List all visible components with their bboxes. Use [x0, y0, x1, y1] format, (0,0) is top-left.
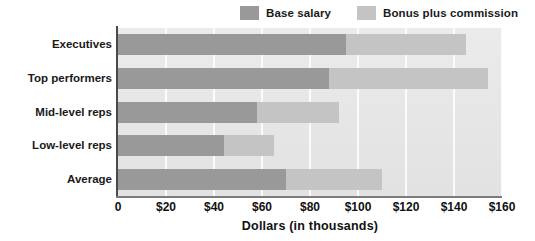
bar-row [118, 68, 488, 89]
x-tick-label: $80 [300, 200, 320, 214]
bar-segment-bonus-plus-commission [346, 34, 466, 55]
x-axis-title: Dollars (in thousands) [118, 219, 502, 233]
category-label: Mid-level reps [4, 106, 112, 118]
bar-segment-bonus-plus-commission [329, 68, 487, 89]
bar-segment-base-salary [118, 34, 346, 55]
bar-segment-base-salary [118, 102, 257, 123]
x-tick-label: $100 [345, 200, 372, 214]
bar-row [118, 135, 274, 156]
gridline [501, 28, 502, 196]
stacked-bar-chart: Base salary Bonus plus commission Execut… [0, 0, 535, 241]
x-tick-label: $60 [252, 200, 272, 214]
category-label: Low-level reps [4, 139, 112, 151]
category-axis-labels: ExecutivesTop performersMid-level repsLo… [0, 28, 112, 196]
bar-segment-bonus-plus-commission [257, 102, 339, 123]
legend-label-base-salary: Base salary [266, 7, 331, 19]
bar-segment-bonus-plus-commission [286, 169, 382, 190]
category-label: Average [4, 173, 112, 185]
x-tick-label: $40 [204, 200, 224, 214]
legend-label-bonus-plus-commission: Bonus plus commission [383, 7, 518, 19]
category-label: Top performers [4, 72, 112, 84]
y-axis-line [116, 26, 118, 198]
x-axis-line [116, 196, 502, 198]
legend-entry-bonus-plus-commission: Bonus plus commission [357, 6, 518, 20]
x-tick-label: $20 [156, 200, 176, 214]
x-tick-label: $120 [393, 200, 420, 214]
bar-segment-base-salary [118, 68, 329, 89]
plot-area [118, 28, 502, 196]
category-label: Executives [4, 38, 112, 50]
legend-swatch-base-salary [240, 6, 259, 20]
x-tick-label: $140 [441, 200, 468, 214]
bar-row [118, 169, 382, 190]
bar-row [118, 102, 339, 123]
legend-swatch-bonus-plus-commission [357, 6, 376, 20]
bar-segment-base-salary [118, 169, 286, 190]
legend-entry-base-salary: Base salary [240, 6, 331, 20]
bar-segment-bonus-plus-commission [224, 135, 274, 156]
bar-row [118, 34, 466, 55]
chart-legend: Base salary Bonus plus commission [240, 4, 530, 22]
x-axis-tick-labels: 0$20$40$60$80$100$120$140$160 [0, 200, 535, 218]
bar-segment-base-salary [118, 135, 224, 156]
x-tick-label: $160 [489, 200, 516, 214]
x-tick-label: 0 [115, 200, 122, 214]
